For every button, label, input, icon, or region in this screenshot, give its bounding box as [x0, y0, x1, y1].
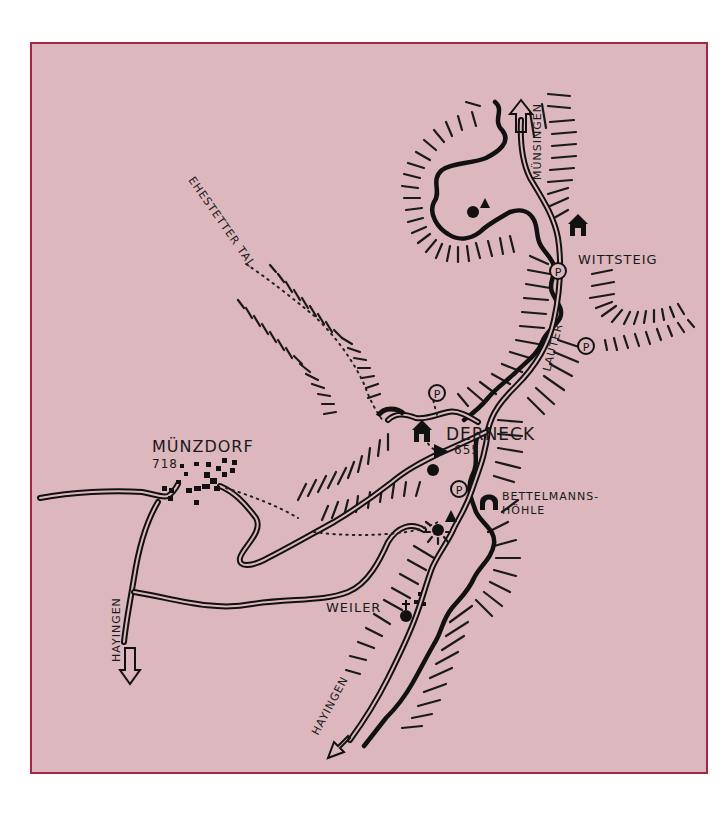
hut-icon: [568, 214, 588, 236]
svg-text:P: P: [583, 341, 590, 354]
label-bettelmannshoehle-2: HÖHLE: [502, 504, 545, 517]
label-muenzdorf: MÜNZDORF: [152, 437, 254, 456]
arrow-down-hayingen-south-icon: [328, 736, 350, 758]
parking-icon: P: [578, 338, 594, 354]
trails: [226, 264, 440, 535]
svg-text:P: P: [456, 484, 463, 497]
label-ehestetter-tal: EHESTETTER TAL: [186, 174, 258, 270]
parking-icon: P: [550, 263, 566, 279]
label-muensingen: MÜNSINGEN: [531, 103, 544, 180]
label-derneck-elevation: 655: [454, 443, 480, 457]
label-wittsteig: WITTSTEIG: [578, 252, 658, 267]
map-frame: P P P P: [30, 42, 708, 774]
slope-hachures: [238, 94, 694, 728]
summit-north: [467, 198, 490, 218]
cave-icon: [480, 495, 498, 511]
label-hayingen-south: HAYINGEN: [309, 674, 351, 737]
hiking-map: P P P P: [32, 44, 706, 772]
map-labels: MÜNZDORF 718 DERNECK 655 WITTSTEIG WEILE…: [110, 103, 658, 737]
svg-text:P: P: [555, 266, 562, 279]
label-derneck: DERNECK: [446, 424, 535, 444]
parking-icon: P: [451, 481, 467, 497]
label-weiler: WEILER: [326, 600, 381, 615]
label-hayingen-west: HAYINGEN: [110, 597, 123, 662]
arrow-down-hayingen-west-icon: [120, 648, 140, 684]
svg-text:P: P: [434, 388, 441, 401]
label-bettelmannshoehle-1: BETTELMANNS-: [502, 490, 599, 503]
parking-icon: P: [429, 385, 445, 401]
label-muenzdorf-elevation: 718: [152, 457, 178, 471]
